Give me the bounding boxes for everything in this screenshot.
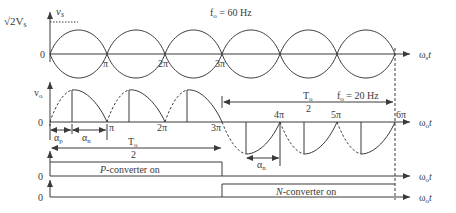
wo-t-axis-label-1: ωot: [419, 117, 432, 130]
peak-voltage-label: √2Vs: [4, 15, 27, 29]
tick-pi: π: [103, 58, 108, 69]
vo-dashed-segment-2: [107, 90, 129, 122]
vo-tick-3pi: 3π: [211, 122, 221, 133]
vo-tick-4pi: 4π: [274, 109, 284, 120]
vo-solid-segment-1: [72, 90, 107, 122]
half-period-1-denominator: 2: [131, 149, 136, 160]
p-converter-on-label: P-converter on: [99, 164, 160, 175]
vs-y-axis-label: vs: [56, 5, 64, 19]
n-converter-on-label: N-converter on: [275, 186, 336, 197]
vo-zero-label: 0: [38, 117, 43, 128]
vs-zero-label: 0: [40, 49, 45, 60]
tick-2pi: 2π: [158, 58, 168, 69]
vo-solid-segment-4: [246, 122, 280, 154]
vo-solid-segment-2: [129, 90, 165, 122]
input-frequency-label: fo = 60 Hz: [210, 7, 252, 20]
half-period-1-numerator: To: [128, 136, 138, 149]
wo-t-axis-label-3: ωot: [419, 192, 432, 205]
vo-dashed-segment-5: [280, 122, 304, 154]
ws-t-axis-label: ωst: [419, 49, 431, 62]
vo-tick-pi: π: [109, 122, 114, 133]
half-period-2-denominator: 2: [306, 103, 311, 114]
vo-solid-segment-3: [187, 90, 222, 122]
vo-tick-5pi: 5π: [331, 109, 341, 120]
vo-y-axis-label: vo: [34, 87, 43, 100]
alpha-p-label: αp: [54, 132, 63, 145]
half-period-2-numerator: To: [303, 90, 313, 103]
alpha-n-label: αn: [82, 132, 91, 145]
wo-t-axis-label-2: ωot: [419, 171, 432, 184]
vo-solid-segment-5: [304, 122, 337, 154]
output-frequency-label: fo = 20 Hz: [337, 90, 379, 103]
vo-solid-segment-6: [361, 122, 395, 154]
cycloconverter-waveform-diagram: vs √2Vs 0 fo = 60 Hz π 2π 3π ωst: [0, 0, 456, 213]
alpha-n2-label: αn: [257, 159, 266, 172]
tick-3pi: 3π: [215, 58, 225, 69]
n-zero-label: 0: [38, 192, 43, 203]
vo-dashed-segment-3: [165, 90, 187, 122]
vo-tick-2pi: 2π: [157, 122, 167, 133]
vo-tick-6pi: 6π: [396, 109, 406, 120]
vo-dashed-segment-6: [337, 122, 361, 154]
vo-dashed-segment-1: [50, 90, 72, 122]
vo-dashed-segment-4: [222, 122, 246, 154]
p-zero-label: 0: [38, 171, 43, 182]
n-converter-panel: [50, 180, 410, 197]
